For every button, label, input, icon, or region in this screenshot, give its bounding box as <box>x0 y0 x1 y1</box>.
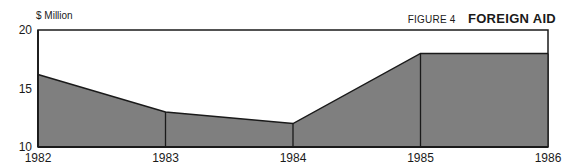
y-tick-label: 20 <box>19 23 33 37</box>
x-tick-label: 1983 <box>152 151 179 165</box>
plot-area <box>38 30 548 147</box>
x-tick-label: 1982 <box>25 151 52 165</box>
area-chart: 101520 19821983198419851986 <box>0 0 584 166</box>
x-axis-ticks: 19821983198419851986 <box>25 151 562 165</box>
x-tick-label: 1984 <box>280 151 307 165</box>
y-axis-ticks: 101520 <box>19 23 33 154</box>
x-tick-label: 1985 <box>407 151 434 165</box>
x-tick-label: 1986 <box>535 151 562 165</box>
y-tick-label: 15 <box>19 82 33 96</box>
